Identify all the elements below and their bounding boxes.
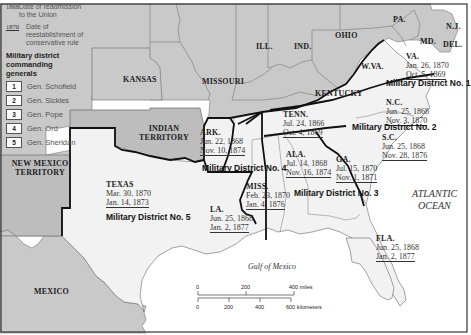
general-name: Gen. Pope	[27, 110, 63, 119]
legend-readmission-year: 1868	[6, 3, 19, 10]
ga-name: GA.	[336, 155, 377, 164]
scale-km-200: 200	[224, 304, 233, 310]
legend-conservative-year: 1870	[6, 23, 26, 30]
sc-conservative-date: Nov. 28, 1876	[382, 151, 427, 161]
legend-general-3: 3 Gen. Pope	[6, 109, 85, 120]
general-name: Gen. Schofield	[27, 82, 76, 91]
texas-readmit-date: Mar. 30, 1870	[106, 189, 151, 198]
scale-km-0: 0	[196, 304, 199, 310]
ark-readmit-date: Jun. 22, 1868	[200, 137, 245, 146]
label-gulf-of-mexico: Gulf of Mexico	[248, 262, 296, 271]
state-tenn: TENN. Jul. 24, 1866 Oct. 4, 1869	[283, 110, 324, 138]
label-ocean: OCEAN	[418, 200, 451, 211]
label-district-5: Military District No. 5	[106, 212, 191, 222]
label-pennsylvania: PA.	[393, 15, 406, 24]
scale-miles-0: 0	[196, 284, 199, 290]
label-district-1: Military District No. 1	[386, 78, 471, 88]
general-name: Gen. Sheridan	[27, 138, 75, 147]
scale-miles-400: 400 miles	[289, 284, 313, 290]
tenn-name: TENN.	[283, 110, 324, 119]
nc-name: N.C.	[386, 98, 429, 107]
va-readmit-date: Jan. 26, 1870	[406, 61, 449, 70]
district-number-box: 2	[6, 95, 22, 106]
fla-conservative-date: Jan. 2, 1877	[376, 252, 415, 262]
label-missouri: MISSOURI	[202, 77, 244, 86]
legend-general-4: 4 Gen. Ord	[6, 123, 85, 134]
miss-name: MISS.	[246, 182, 290, 191]
state-fla: FLA. Jun. 25, 1868 Jan. 2, 1877	[376, 234, 419, 262]
general-name: Gen. Ord	[27, 124, 58, 133]
label-kansas: KANSAS	[123, 75, 157, 84]
district-number-box: 4	[6, 123, 22, 134]
state-ga: GA. Jul. 15, 1870 Nov. 1, 1871	[336, 155, 377, 183]
state-ark: ARK. Jun. 22, 1868 Nov. 10, 1874	[200, 128, 245, 156]
label-indian-territory-text: INDIAN TERRITORY	[138, 124, 190, 142]
la-conservative-date: Jan. 2, 1877	[210, 223, 249, 233]
district-number-box: 3	[6, 109, 22, 120]
tenn-readmit-date: Jul. 24, 1866	[283, 119, 324, 128]
fla-readmit-date: Jun. 25, 1868	[376, 243, 419, 252]
state-sc: S.C. Jun. 25, 1868 Nov. 28, 1876	[382, 133, 427, 161]
ga-conservative-date: Nov. 1, 1871	[336, 173, 377, 183]
label-west-virginia: W.VA.	[361, 62, 384, 71]
scale-km-400: 400	[255, 304, 264, 310]
label-indiana: IND.	[294, 42, 311, 51]
sc-readmit-date: Jun. 25, 1868	[382, 142, 427, 151]
label-ohio: OHIO	[335, 31, 358, 40]
label-kentucky: KENTUCKY	[315, 89, 363, 98]
ark-conservative-date: Nov. 10, 1874	[200, 146, 245, 156]
state-texas: TEXAS Mar. 30, 1870 Jan. 14, 1873	[106, 180, 151, 208]
nc-readmit-date: Jun. 25, 1868	[386, 107, 429, 116]
texas-conservative-date: Jan. 14, 1873	[106, 198, 149, 208]
label-new-jersey: N.J.	[446, 22, 461, 31]
label-mexico: MEXICO	[34, 287, 69, 296]
state-la: LA. Jun. 25, 1868 Jan. 2, 1877	[210, 205, 253, 233]
label-atlantic: ATLANTIC	[412, 188, 457, 199]
miss-readmit-date: Feb. 23, 1870	[246, 191, 290, 200]
state-ala: ALA. Jul. 14, 1868 Nov. 16, 1874	[286, 150, 331, 178]
legend-generals-heading: Military district commanding generals	[6, 51, 66, 78]
label-district-4: Military District No. 4	[202, 163, 287, 173]
scale-miles-200: 200	[241, 284, 250, 290]
la-readmit-date: Jun. 25, 1868	[210, 214, 253, 223]
label-delaware: DEL.	[443, 40, 462, 49]
label-illinois: ILL.	[256, 42, 273, 51]
legend-general-5: 5 Gen. Sheridan	[6, 137, 85, 148]
la-name: LA.	[210, 205, 253, 214]
general-name: Gen. Sickles	[27, 96, 69, 105]
scale-bar: 0 200 400 miles 0 200 400 600 kilometers	[196, 284, 326, 314]
legend-conservative-text: Date of reestablishment of conservative …	[26, 23, 84, 47]
legend-readmission: 1868 Date of readmission to the Union	[3, 3, 85, 19]
ga-readmit-date: Jul. 15, 1870	[336, 164, 377, 173]
state-va: VA. Jan. 26, 1870 Oct. 5, 1869	[406, 52, 449, 80]
va-name: VA.	[406, 52, 449, 61]
ala-name: ALA.	[286, 150, 331, 159]
label-maryland: MD.	[420, 37, 436, 46]
texas-name: TEXAS	[106, 180, 151, 189]
legend-general-1: 1 Gen. Schofield	[6, 81, 85, 92]
district-number-box: 5	[6, 137, 22, 148]
label-district-3: Military District No. 3	[294, 188, 379, 198]
label-indian-territory: INDIAN TERRITORY	[138, 124, 190, 142]
ala-readmit-date: Jul. 14, 1868	[286, 159, 331, 168]
sc-name: S.C.	[382, 133, 427, 142]
ala-conservative-date: Nov. 16, 1874	[286, 168, 331, 178]
legend-general-2: 2 Gen. Sickles	[6, 95, 85, 106]
legend-conservative: 1870 Date of reestablishment of conserva…	[3, 23, 85, 47]
label-new-mexico-territory: NEW MEXICO TERRITORY	[10, 159, 70, 177]
tenn-conservative-date: Oct. 4, 1869	[283, 128, 323, 138]
ark-name: ARK.	[200, 128, 245, 137]
label-new-mexico-text: NEW MEXICO TERRITORY	[10, 159, 70, 177]
map-legend: 1868 Date of readmission to the Union 18…	[3, 3, 85, 151]
label-district-2: Military District No. 2	[352, 122, 437, 132]
scale-km-600: 600 kilometers	[286, 304, 322, 310]
fla-name: FLA.	[376, 234, 419, 243]
legend-readmission-text: Date of readmission to the Union	[19, 3, 85, 19]
district-number-box: 1	[6, 81, 22, 92]
